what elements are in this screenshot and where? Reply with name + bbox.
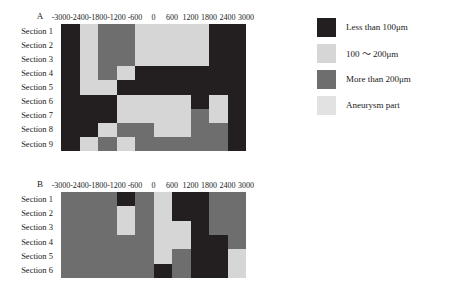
- heatmap-cell: [154, 52, 173, 67]
- heatmap-cell: [191, 137, 210, 151]
- heatmap-cell: [191, 66, 210, 81]
- panel-a-row-label: Section 1: [0, 24, 57, 38]
- panel-b-heatmap-grid: [61, 192, 246, 278]
- panel-b-x-tick: 1200: [183, 180, 199, 191]
- heatmap-cell: [117, 235, 136, 250]
- heatmap-cell: [61, 123, 80, 138]
- panel-a-x-tick: 0: [152, 12, 156, 23]
- heatmap-cell: [117, 192, 136, 207]
- panel-b-row-label: Section 1: [0, 192, 57, 206]
- heatmap-cell: [191, 206, 210, 221]
- panel-a-x-tick: 3000: [238, 12, 254, 23]
- heatmap-cell: [135, 249, 154, 264]
- heatmap-cell: [98, 221, 117, 236]
- heatmap-cell: [172, 192, 191, 207]
- heatmap-cell: [209, 109, 228, 124]
- panel-a-x-tick: -1800: [89, 12, 108, 23]
- panel-a-row-labels: Section 1Section 2Section 3Section 4Sect…: [0, 24, 57, 151]
- heatmap-cell: [228, 249, 247, 264]
- heatmap-cell: [191, 235, 210, 250]
- legend-label: More than 200μm: [346, 74, 411, 84]
- heatmap-cell: [228, 192, 247, 207]
- panel-b-row-label: Section 6: [0, 263, 57, 277]
- heatmap-panel-b: B Section 1Section 2Section 3Section 4Se…: [0, 170, 460, 291]
- legend-color-swatch: [317, 70, 336, 89]
- heatmap-cell: [172, 235, 191, 250]
- panel-a-x-tick: -2400: [70, 12, 89, 23]
- heatmap-cell: [117, 206, 136, 221]
- heatmap-cell: [191, 249, 210, 264]
- heatmap-cell: [228, 109, 247, 124]
- panel-b-row-label: Section 5: [0, 249, 57, 263]
- heatmap-cell: [80, 66, 99, 81]
- heatmap-cell: [117, 137, 136, 151]
- heatmap-cell: [209, 235, 228, 250]
- heatmap-cell: [98, 235, 117, 250]
- heatmap-cell: [209, 137, 228, 151]
- heatmap-cell: [191, 52, 210, 67]
- heatmap-cell: [98, 38, 117, 53]
- heatmap-cell: [154, 24, 173, 39]
- legend-label: Less than 100μm: [346, 22, 408, 32]
- heatmap-cell: [98, 249, 117, 264]
- panel-a-row-label: Section 7: [0, 109, 57, 123]
- panel-a-x-tick: 2400: [220, 12, 236, 23]
- heatmap-cell: [209, 123, 228, 138]
- heatmap-cell: [172, 52, 191, 67]
- heatmap-cell: [98, 264, 117, 278]
- legend-label: Aneurysm part: [346, 100, 400, 110]
- panel-a-x-tick: 1200: [183, 12, 199, 23]
- heatmap-cell: [117, 109, 136, 124]
- heatmap-cell: [135, 264, 154, 278]
- panel-a-row-label: Section 5: [0, 80, 57, 94]
- heatmap-cell: [172, 95, 191, 110]
- heatmap-cell: [80, 264, 99, 278]
- panel-b-row-label: Section 3: [0, 221, 57, 235]
- heatmap-cell: [154, 109, 173, 124]
- heatmap-cell: [80, 95, 99, 110]
- heatmap-cell: [135, 52, 154, 67]
- heatmap-cell: [191, 264, 210, 278]
- heatmap-cell: [154, 249, 173, 264]
- heatmap-cell: [228, 235, 247, 250]
- heatmap-cell: [135, 24, 154, 39]
- heatmap-cell: [80, 137, 99, 151]
- heatmap-cell: [80, 235, 99, 250]
- heatmap-cell: [135, 221, 154, 236]
- legend-item: 100 ～ 200μm: [317, 40, 460, 66]
- heatmap-cell: [80, 123, 99, 138]
- heatmap-cell: [61, 95, 80, 110]
- legend-item: Aneurysm part: [317, 92, 460, 118]
- heatmap-cell: [191, 221, 210, 236]
- heatmap-cell: [191, 80, 210, 95]
- heatmap-cell: [228, 52, 247, 67]
- heatmap-cell: [135, 109, 154, 124]
- heatmap-cell: [191, 24, 210, 39]
- heatmap-cell: [135, 66, 154, 81]
- heatmap-cell: [191, 123, 210, 138]
- heatmap-cell: [154, 38, 173, 53]
- heatmap-cell: [61, 249, 80, 264]
- heatmap-cell: [98, 206, 117, 221]
- heatmap-cell: [209, 206, 228, 221]
- panel-b-x-tick: -1200: [107, 180, 126, 191]
- legend-color-swatch: [317, 18, 336, 37]
- heatmap-cell: [209, 38, 228, 53]
- heatmap-cell: [61, 80, 80, 95]
- panel-a-x-tick: -3000: [52, 12, 71, 23]
- heatmap-cell: [172, 109, 191, 124]
- heatmap-cell: [98, 66, 117, 81]
- heatmap-cell: [61, 221, 80, 236]
- heatmap-cell: [228, 80, 247, 95]
- heatmap-cell: [154, 80, 173, 95]
- heatmap-cell: [172, 221, 191, 236]
- heatmap-cell: [154, 206, 173, 221]
- heatmap-cell: [172, 249, 191, 264]
- panel-b-x-tick: 600: [166, 180, 178, 191]
- heatmap-cell: [80, 52, 99, 67]
- panel-b-x-tick: -3000: [52, 180, 71, 191]
- heatmap-cell: [154, 123, 173, 138]
- heatmap-cell: [135, 137, 154, 151]
- heatmap-cell: [209, 221, 228, 236]
- panel-b-x-tick: -600: [128, 180, 143, 191]
